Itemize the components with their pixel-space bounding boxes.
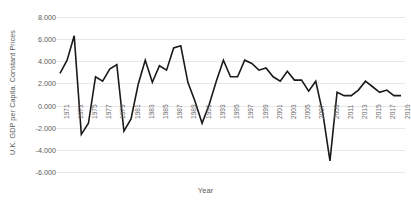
x-tick-label: 1991 [205, 104, 212, 119]
x-tick-label: 1985 [162, 104, 169, 119]
x-tick-label: 2013 [361, 104, 368, 119]
x-tick-label: 1995 [233, 104, 240, 119]
x-tick-label: 1979 [119, 104, 126, 119]
x-axis-title: Year [0, 186, 411, 195]
x-tick-label: 1981 [134, 104, 141, 119]
x-tick-label: 1973 [77, 104, 84, 119]
x-tick-label: 2019 [404, 104, 411, 119]
y-tick-label: 6.000 [22, 35, 56, 44]
series-polyline [60, 36, 401, 161]
x-tick-label: 1993 [219, 104, 226, 119]
y-tick-label: 0.000 [22, 101, 56, 110]
y-tick-label: -6.000 [22, 168, 56, 177]
x-tick-label: 2003 [290, 104, 297, 119]
y-tick-label: -4.000 [22, 145, 56, 154]
gdp-per-capita-line-chart: U.K. GDP per Capita, Constant Prices 8.0… [0, 0, 411, 204]
x-tick-label: 1989 [190, 104, 197, 119]
x-tick-label: 1975 [91, 104, 98, 119]
x-tick-label: 1977 [105, 104, 112, 119]
x-tick-label: 2005 [304, 104, 311, 119]
y-tick-label: 8.000 [22, 13, 56, 22]
plot-area [56, 17, 405, 172]
x-tick-label: 2011 [347, 105, 354, 119]
x-tick-label: 1983 [148, 104, 155, 119]
gridline [56, 172, 405, 173]
x-tick-label: 2001 [276, 104, 283, 119]
x-tick-label: 1999 [262, 104, 269, 119]
y-tick-label: -2.000 [22, 123, 56, 132]
x-tick-label: 1971 [63, 104, 70, 119]
x-tick-label: 1987 [176, 104, 183, 119]
x-tick-label: 2009 [333, 104, 340, 119]
y-tick-label: 4.000 [22, 57, 56, 66]
y-tick-label: 2.000 [22, 79, 56, 88]
y-axis-title: U.K. GDP per Capita, Constant Prices [8, 3, 17, 183]
x-tick-label: 2007 [318, 104, 325, 119]
x-tick-label: 2017 [389, 104, 396, 119]
x-tick-label: 2015 [375, 104, 382, 119]
data-series-line [56, 17, 405, 172]
x-axis-tick-labels: 1971197319751977197919811983198519871989… [56, 117, 405, 118]
x-tick-label: 1997 [247, 104, 254, 119]
